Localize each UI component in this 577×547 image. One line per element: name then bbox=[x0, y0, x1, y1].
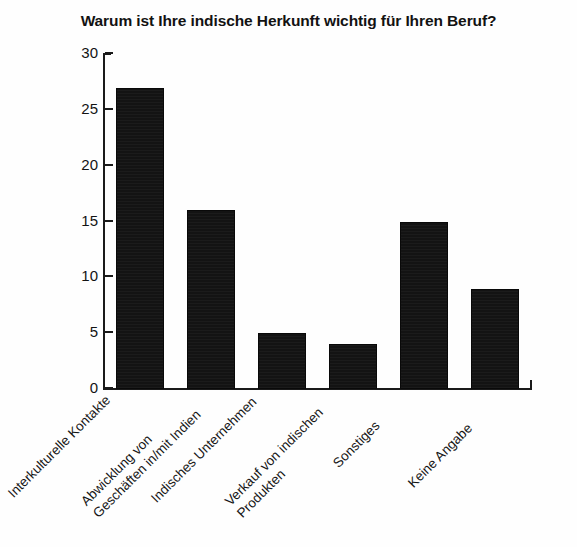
y-axis-tick bbox=[105, 220, 113, 222]
x-axis-labels: Interkulturelle KontakteAbwicklung vonGe… bbox=[0, 392, 577, 547]
y-axis-tick-label: 10 bbox=[58, 268, 98, 283]
plot-area bbox=[104, 53, 531, 389]
bar bbox=[400, 222, 448, 390]
y-axis-tick-label: 5 bbox=[58, 324, 98, 339]
y-axis-tick-label: 15 bbox=[58, 213, 98, 228]
x-axis-tick-label: Sonstiges bbox=[330, 418, 384, 472]
bar-chart: Warum ist Ihre indische Herkunft wichtig… bbox=[0, 0, 577, 547]
y-axis-tick-label: 30 bbox=[58, 45, 98, 60]
y-axis-tick-label: 20 bbox=[58, 157, 98, 172]
y-axis-tick-label: 25 bbox=[58, 101, 98, 116]
x-axis-tick-label-line: Sonstiges bbox=[330, 418, 384, 472]
y-axis-tick bbox=[105, 52, 113, 54]
bar bbox=[258, 333, 306, 389]
bar bbox=[329, 344, 377, 389]
x-axis-tick-label: Keine Angabe bbox=[405, 421, 476, 492]
y-axis-tick bbox=[105, 387, 113, 389]
x-axis-tick-label-line: Keine Angabe bbox=[405, 421, 476, 492]
y-axis-tick bbox=[105, 108, 113, 110]
chart-title: Warum ist Ihre indische Herkunft wichtig… bbox=[0, 12, 577, 30]
bar bbox=[471, 289, 519, 390]
y-axis-tick bbox=[105, 331, 113, 333]
bar bbox=[187, 210, 235, 389]
y-axis-tick bbox=[105, 164, 113, 166]
bar bbox=[116, 88, 164, 390]
y-axis-tick-label: 0 bbox=[58, 380, 98, 395]
y-axis-tick bbox=[105, 275, 113, 277]
